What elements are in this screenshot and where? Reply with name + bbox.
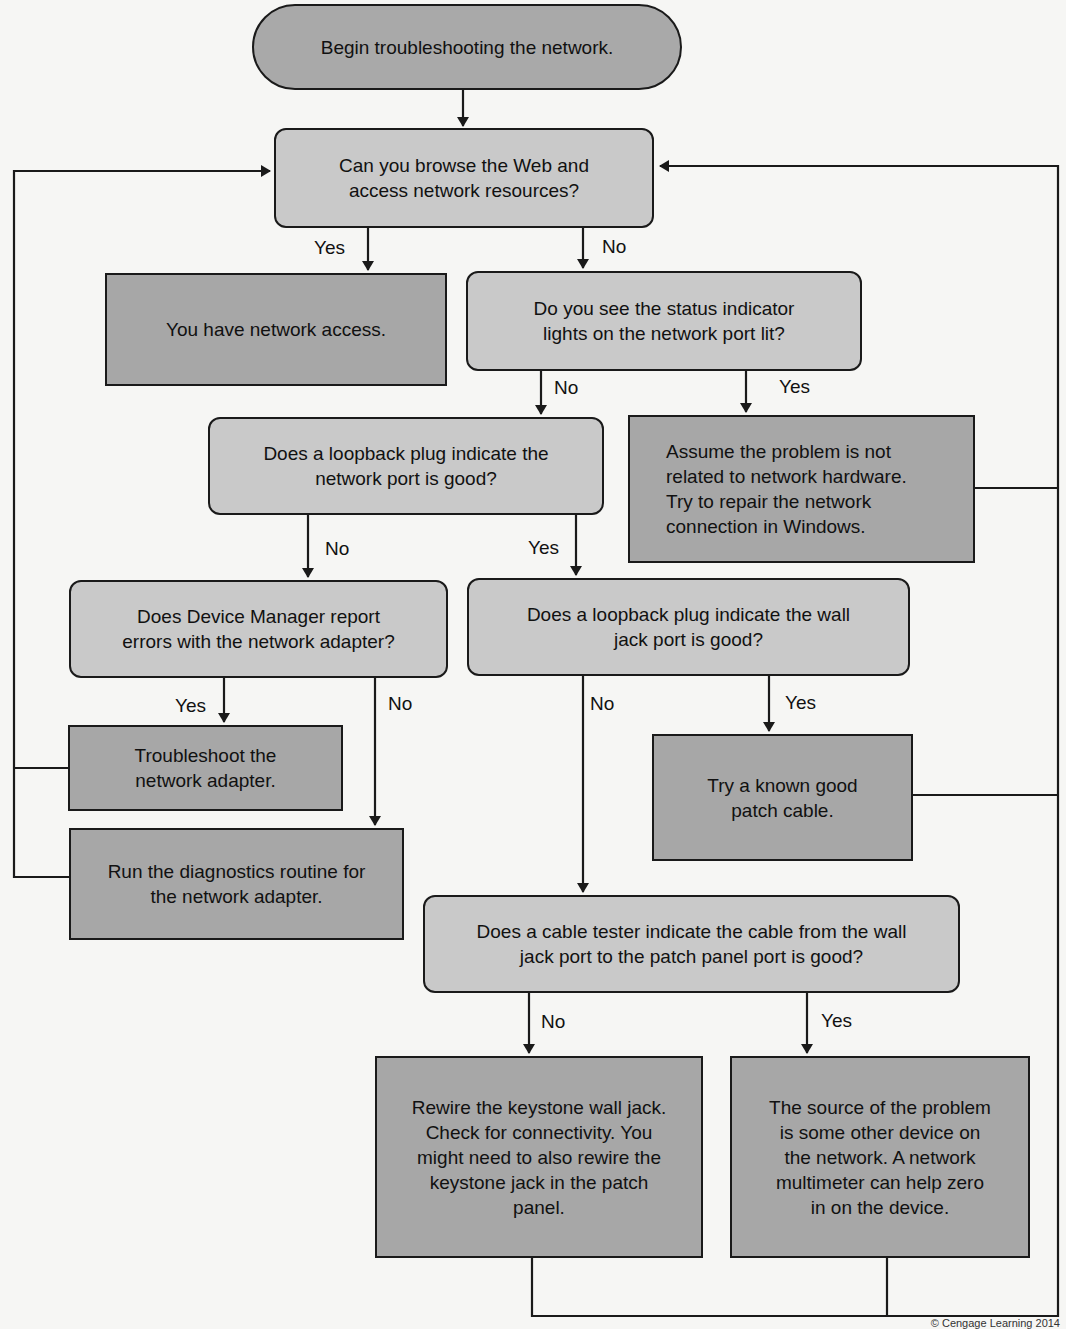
action-have-network-access: You have network access. [105, 273, 447, 386]
action-troubleshoot-adapter: Troubleshoot the network adapter. [68, 725, 343, 811]
edge-label-device-manager-no: No [388, 694, 412, 714]
decision-loopback-network-port: Does a loopback plug indicate the networ… [208, 417, 604, 515]
action-other-device: The source of the problem is some other … [730, 1056, 1030, 1258]
decision-loopback-wall-jack: Does a loopback plug indicate the wall j… [467, 578, 910, 676]
edge-label-status-yes: Yes [779, 377, 810, 397]
edge-label-browse-yes: Yes [314, 238, 345, 258]
decision-status-lights: Do you see the status indicator lights o… [466, 271, 862, 371]
action-rewire-keystone: Rewire the keystone wall jack. Check for… [375, 1056, 703, 1258]
edge-label-cable-tester-no: No [541, 1012, 565, 1032]
edge-label-device-manager-yes: Yes [175, 696, 206, 716]
edge-label-loopback-port-no: No [325, 539, 349, 559]
decision-browse-web: Can you browse the Web and access networ… [274, 128, 654, 228]
troubleshooting-flowchart: Begin troubleshooting the network. Can y… [0, 0, 1066, 1329]
decision-device-manager-errors: Does Device Manager report errors with t… [69, 580, 448, 678]
edge-label-cable-tester-yes: Yes [821, 1011, 852, 1031]
action-not-hardware-repair-windows: Assume the problem is not related to net… [628, 415, 975, 563]
copyright-notice: © Cengage Learning 2014 [931, 1317, 1060, 1329]
edge-label-loopback-port-yes: Yes [528, 538, 559, 558]
decision-cable-tester: Does a cable tester indicate the cable f… [423, 895, 960, 993]
start-node: Begin troubleshooting the network. [252, 4, 682, 90]
edge-label-loopback-wall-yes: Yes [785, 693, 816, 713]
edge-label-loopback-wall-no: No [590, 694, 614, 714]
edge-label-status-no: No [554, 378, 578, 398]
edge-label-browse-no: No [602, 237, 626, 257]
action-run-diagnostics: Run the diagnostics routine for the netw… [69, 828, 404, 940]
action-try-patch-cable: Try a known good patch cable. [652, 734, 913, 861]
